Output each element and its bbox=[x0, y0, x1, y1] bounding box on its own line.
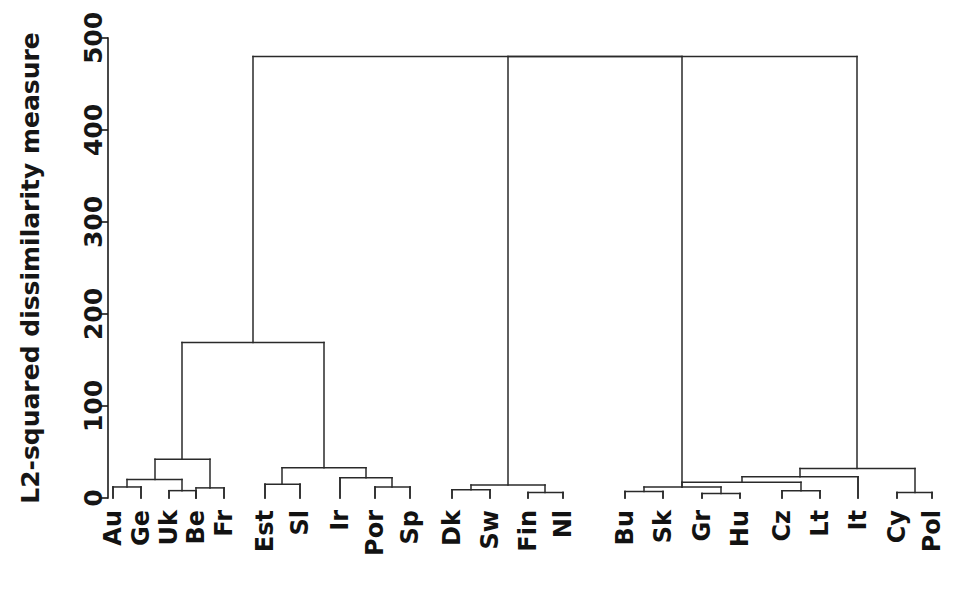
y-axis-title: L2-squared dissimilarity measure bbox=[16, 32, 45, 504]
dendrogram-plot: 0100200300400500 AuGeUkBeFrEstSlIrPorSpD… bbox=[0, 0, 956, 604]
link-link-uk-be bbox=[169, 491, 196, 498]
leaf-label-Est: Est bbox=[251, 510, 279, 552]
link-link-root bbox=[253, 56, 682, 487]
leaf-label-Bu: Bu bbox=[611, 510, 639, 545]
y-axis: 0100200300400500 bbox=[79, 12, 109, 507]
leaf-label-Fr: Fr bbox=[210, 510, 238, 537]
leaf-label-Cy: Cy bbox=[883, 510, 911, 544]
y-tick-label-200: 200 bbox=[79, 288, 108, 340]
leaf-label-Gr: Gr bbox=[688, 510, 716, 542]
y-tick-label-300: 300 bbox=[79, 196, 108, 248]
link-link-cy-pol bbox=[897, 492, 932, 498]
leaf-label-Sk: Sk bbox=[649, 509, 677, 543]
leaf-label-Sl: Sl bbox=[286, 510, 314, 536]
axis-title: L2-squared dissimilarity measure bbox=[16, 32, 45, 504]
y-tick-label-0: 0 bbox=[79, 489, 108, 506]
link-link-balkan bbox=[644, 487, 721, 493]
leaf-label-Ge: Ge bbox=[127, 510, 155, 546]
link-link-au-ge bbox=[113, 487, 141, 498]
link-link-dk-sw bbox=[452, 490, 490, 498]
leaf-label-Por: Por bbox=[361, 510, 389, 556]
dendrogram-figure: 0100200300400500 AuGeUkBeFrEstSlIrPorSpD… bbox=[0, 0, 956, 604]
leaf-label-Au: Au bbox=[99, 510, 127, 546]
leaf-label-Sw: Sw bbox=[476, 510, 504, 549]
leaf-label-Be: Be bbox=[182, 510, 210, 545]
link-link-ir-porsp bbox=[340, 478, 392, 498]
link-link-por-sp bbox=[375, 487, 410, 498]
link-link-east-it bbox=[742, 477, 858, 498]
link-link-estsl-irpor bbox=[282, 468, 366, 485]
leaf-label-Lt: Lt bbox=[806, 510, 834, 537]
link-link-west-south bbox=[182, 343, 324, 468]
y-tick-label-500: 500 bbox=[79, 12, 108, 64]
leaf-label-Uk: Uk bbox=[155, 509, 183, 545]
leaf-label-Hu: Hu bbox=[726, 510, 754, 547]
y-tick-label-100: 100 bbox=[79, 380, 108, 432]
link-link-be-fr bbox=[196, 488, 224, 498]
leaf-label-It: It bbox=[844, 510, 872, 530]
dendrogram-links bbox=[113, 56, 932, 498]
link-link-bu-sk bbox=[625, 492, 663, 498]
link-link-cz-lt bbox=[782, 491, 820, 498]
link-link-nordic bbox=[471, 485, 545, 492]
leaf-label-Cz: Cz bbox=[768, 510, 796, 542]
link-link-est-sl bbox=[265, 484, 300, 498]
leaf-label-Fin: Fin bbox=[514, 510, 542, 552]
leaf-label-Ir: Ir bbox=[326, 510, 354, 531]
leaf-label-Sp: Sp bbox=[396, 510, 424, 544]
dendrogram-leaf-stems bbox=[113, 477, 932, 498]
leaf-label-Pol: Pol bbox=[918, 510, 946, 552]
leaf-labels: AuGeUkBeFrEstSlIrPorSpDkSwFinNlBuSkGrHuC… bbox=[99, 509, 946, 556]
link-link-fin-nl bbox=[528, 492, 563, 498]
y-tick-label-400: 400 bbox=[79, 104, 108, 156]
link-link-auge-ukbe bbox=[127, 480, 182, 491]
leaf-label-Nl: Nl bbox=[549, 510, 577, 538]
leaf-label-Dk: Dk bbox=[438, 509, 466, 546]
